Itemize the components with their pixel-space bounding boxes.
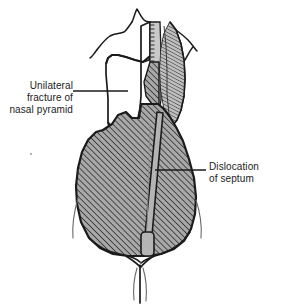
annotation-unilateral-fracture: Unilateral fracture of nasal pyramid	[0, 80, 73, 116]
illustration-canvas	[0, 0, 291, 307]
scan-speck	[30, 153, 32, 155]
annotation-line: fracture of	[0, 92, 73, 104]
annotation-septum-dislocation: Dislocation of septum	[209, 161, 291, 185]
annotation-line: Dislocation	[209, 161, 291, 173]
nasal-fracture-illustration: Unilateral fracture of nasal pyramid Dis…	[0, 0, 291, 307]
annotation-line: nasal pyramid	[0, 104, 73, 116]
annotation-line: of septum	[209, 173, 291, 185]
annotation-line: Unilateral	[0, 80, 73, 92]
columella-base	[141, 232, 154, 256]
